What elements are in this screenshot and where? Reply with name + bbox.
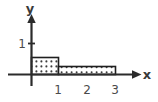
x-tick-label-1: 1 [54,83,62,97]
bar-chart-figure: y x 1 1 2 3 [0,0,158,102]
x-tick-label-3: 3 [111,83,119,97]
bar-1-rect [32,58,59,75]
bar-1 [32,58,59,75]
bar-2-rect [59,67,116,75]
x-tick-label-2: 2 [83,83,91,97]
chart-canvas: y x 1 1 2 3 [0,0,158,102]
x-axis-label: x [143,67,152,82]
bar-2 [59,67,116,75]
y-tick-label-1: 1 [18,37,26,51]
y-axis-label: y [26,1,35,16]
x-axis-arrow-icon [132,70,142,78]
